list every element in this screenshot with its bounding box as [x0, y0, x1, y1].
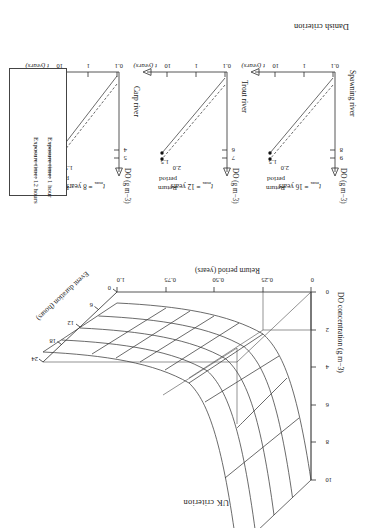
uk-z-tick-6: 6 [326, 402, 329, 409]
spawning-river-label: Spawning river [348, 70, 357, 117]
danish-criterion-panel: Danish criterion [0, 0, 379, 260]
trout-x-tick-01: 0.1 [223, 63, 231, 70]
trout-x-tick-1: 1 [195, 63, 198, 70]
spawning-point-label-20: 2.0 [281, 165, 289, 172]
carp-y-axis-label: DO (g m−3) [123, 168, 131, 204]
subplot-trout-river: 6 7 0.1 1 10 t (years) DO (g m−3) Trout … [135, 43, 253, 198]
trout-returnperiod-line1: Return [158, 184, 177, 192]
trout-returnperiod-line2: period [159, 175, 177, 183]
uk-criterion-panel: UK criterion [0, 260, 379, 528]
uk-y-tick-18: 18 [49, 338, 56, 345]
uk-x-tick-0: 0 [311, 277, 314, 284]
uk-z-tick-10: 10 [325, 477, 332, 484]
trout-tmax-subscript: max [202, 181, 211, 186]
trout-point-label-20: 2.0 [173, 165, 181, 172]
carp-river-label: Carp river [132, 86, 141, 117]
uk-x-ticks [117, 287, 311, 292]
spawning-returnperiod-line2: period [267, 175, 285, 183]
figure-root: UK criterion [0, 0, 379, 528]
spawning-y-tick-8: 8 [340, 147, 343, 154]
trout-y-tick-7: 7 [232, 155, 235, 162]
trout-river-label: Trout river [240, 80, 249, 113]
uk-criterion-title: UK criterion [183, 498, 229, 508]
spawning-x-tick-01: 0.1 [331, 63, 339, 70]
trout-y-tick-6: 6 [232, 147, 235, 154]
trout-tmax-symbol: t [211, 182, 213, 190]
carp-tmax-symbol: t [103, 182, 105, 190]
spawning-y-tick-9: 9 [340, 155, 343, 162]
spawning-point-label-15: 1.5 [269, 159, 277, 166]
carp-y-tick-4: 4 [124, 147, 127, 154]
spawning-tmax-subscript: max [310, 181, 319, 186]
uk-x-axis-label: Return period (years) [195, 266, 260, 275]
uk-z-tick-4: 4 [326, 364, 329, 371]
uk-z-axis-label: DO concentration (g m−3) [336, 292, 345, 373]
uk-x-tick-075: 0.75 [164, 277, 176, 284]
carp-y-tick-5: 5 [124, 155, 127, 162]
danish-legend: Exposure time: 1 hour Exposure time: 12 … [9, 68, 67, 196]
uk-x-tick-050: 0.50 [212, 277, 224, 284]
uk-x-tick-10: 1.0 [117, 277, 125, 284]
spawning-returnperiod-line1: Return [266, 184, 285, 192]
trout-point-label-15: 1.5 [161, 159, 169, 166]
carp-x-tick-1: 1 [87, 63, 90, 70]
spawning-x-tick-1: 1 [303, 63, 306, 70]
uk-z-tick-2: 2 [326, 327, 329, 334]
spawning-x-tick-10: 10 [272, 63, 279, 70]
legend-item-12-hours: Exposure time: 12 hours [33, 137, 40, 204]
uk-y-tick-6: 6 [90, 302, 93, 309]
carp-tmax-annotation: tmax = 8 years [66, 181, 105, 190]
uk-y-tick-0: 0 [108, 285, 111, 292]
spawning-tmax-symbol: t [319, 182, 321, 190]
trout-x-tick-10: 10 [164, 63, 171, 70]
spawning-y-axis-label: DO (g m−3) [339, 168, 347, 204]
uk-z-tick-0: 0 [326, 289, 329, 296]
uk-z-tick-8: 8 [326, 439, 329, 446]
legend-item-1-hour: Exposure time: 1 hour [47, 137, 54, 198]
uk-x-tick-025: 0.25 [261, 277, 273, 284]
uk-z-ticks [311, 292, 316, 480]
trout-y-axis-label: DO (g m−3) [231, 168, 239, 204]
danish-criterion-title: Danish criterion [294, 22, 349, 32]
uk-y-tick-24: 24 [31, 356, 38, 363]
subplot-spawning-river: 8 9 0.1 1 10 t (years) DO (g m−3) Spawni… [243, 43, 361, 198]
uk-y-tick-12: 12 [67, 320, 74, 327]
carp-x-tick-01: 0.1 [115, 63, 123, 70]
carp-tmax-value: = 8 years [66, 182, 92, 190]
carp-tmax-subscript: max [94, 181, 103, 186]
